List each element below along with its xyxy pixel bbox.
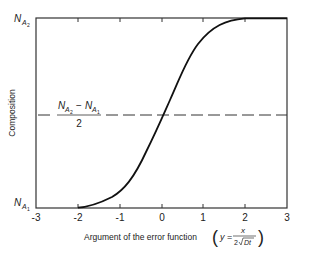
svg-text:2: 2 <box>27 22 30 28</box>
x-tick-labels: -3 -2 -1 0 1 2 3 <box>32 212 291 223</box>
x-axis-title: Argument of the error function <box>84 232 197 242</box>
x-tick-label: -1 <box>116 212 125 223</box>
x-tick-label: 2 <box>242 212 248 223</box>
svg-text:1: 1 <box>97 109 100 115</box>
svg-text:−: − <box>76 100 82 111</box>
x-tick-label: 3 <box>284 212 290 223</box>
svg-text:(: ( <box>212 227 218 247</box>
erf-curve <box>78 18 287 207</box>
x-tick-label: -3 <box>32 212 41 223</box>
svg-text:2: 2 <box>76 118 82 129</box>
x-tick-label: -2 <box>74 212 83 223</box>
svg-text:2: 2 <box>70 109 73 115</box>
midline-label: N A 2 − N A 1 2 <box>57 100 101 129</box>
svg-text:1: 1 <box>27 206 30 212</box>
svg-text:y: y <box>219 232 225 242</box>
svg-text:Dt: Dt <box>244 239 252 246</box>
x-tick-label: 1 <box>200 212 206 223</box>
svg-text:N: N <box>14 197 22 208</box>
x-axis-formula: ( y = x 2 Dt ) <box>212 226 264 247</box>
svg-text:=: = <box>227 232 232 242</box>
x-tick-label: 0 <box>159 212 165 223</box>
y-label-bottom: N A 1 <box>14 197 30 212</box>
plot-frame <box>36 18 287 208</box>
x-ticks <box>78 18 245 208</box>
y-label-top: N A 2 <box>14 13 30 28</box>
chart: -3 -2 -1 0 1 2 3 N A 2 − N A 1 2 N A 2 N… <box>0 0 330 261</box>
svg-text:): ) <box>258 227 264 247</box>
y-axis-title: Composition <box>7 89 17 137</box>
svg-text:2: 2 <box>234 239 238 246</box>
svg-text:N: N <box>14 13 22 24</box>
svg-text:x: x <box>240 226 246 235</box>
